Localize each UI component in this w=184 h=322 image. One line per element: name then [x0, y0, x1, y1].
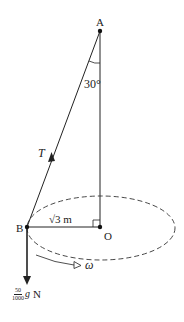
weight-numerator: 50: [14, 287, 22, 295]
label-angle: 30°: [84, 78, 101, 90]
weight-unit: N: [33, 289, 41, 300]
weight-fraction: 50 1000: [12, 287, 24, 301]
angle-arc: [89, 61, 100, 63]
label-tension: T: [38, 147, 45, 159]
weight-denominator: 1000: [12, 295, 24, 302]
label-weight: 50 1000 g N: [12, 287, 41, 301]
label-point-A: A: [96, 17, 104, 28]
rotation-arrow-icon: [74, 262, 81, 269]
label-point-O: O: [104, 231, 112, 242]
label-point-B: B: [16, 223, 23, 234]
weight-arrow-icon: [23, 276, 31, 285]
string-AB: [27, 31, 100, 227]
label-radius: √3 m: [49, 214, 72, 225]
point-O-dot: [98, 225, 102, 229]
rotation-arrow-path: [36, 255, 74, 265]
label-angular-velocity: ω: [85, 259, 93, 271]
weight-variable-g: g: [25, 289, 30, 299]
point-A-dot: [98, 29, 102, 33]
point-B-dot: [25, 225, 29, 229]
conical-pendulum-diagram: [0, 0, 184, 322]
